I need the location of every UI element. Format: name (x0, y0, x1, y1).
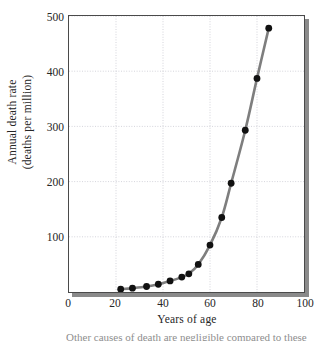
y-tick-label-100: 100 (30, 232, 64, 244)
x-tick-label-100: 100 (285, 297, 325, 309)
data-point-80 (254, 75, 261, 82)
data-point-22 (117, 286, 124, 292)
x-tick-label-40: 40 (143, 297, 183, 309)
x-tick-label-60: 60 (190, 297, 230, 309)
plot-canvas (69, 16, 304, 292)
data-point-69 (228, 180, 235, 187)
data-point-markers (117, 25, 272, 292)
data-point-85 (265, 25, 272, 32)
data-point-75 (242, 127, 249, 134)
data-point-65 (218, 214, 225, 221)
y-tick-label-400: 400 (30, 67, 64, 79)
data-point-27 (129, 285, 136, 292)
figure-caption-partial: Other causes of death are negligible com… (66, 331, 324, 341)
x-axis-title: Years of age (68, 313, 306, 325)
y-axis-tick-labels: 500 400 300 200 100 (28, 0, 64, 341)
vertical-gridlines (116, 16, 257, 292)
data-curve (121, 28, 269, 289)
data-point-60 (207, 242, 214, 249)
data-point-38 (155, 281, 162, 288)
x-tick-label-80: 80 (238, 297, 278, 309)
x-tick-label-0: 0 (48, 297, 88, 309)
horizontal-gridlines (69, 16, 304, 237)
data-point-51 (185, 270, 192, 277)
data-point-43 (167, 278, 174, 285)
data-point-48 (178, 274, 185, 281)
y-tick-label-500: 500 (30, 12, 64, 24)
plot-area (68, 15, 305, 293)
y-tick-label-200: 200 (30, 177, 64, 189)
y-tick-label-300: 300 (30, 122, 64, 134)
data-point-33 (143, 283, 150, 290)
figure-container: Annual death rate (deaths per million) 5… (0, 0, 330, 341)
data-point-55 (195, 261, 202, 268)
y-axis-title-line1: Annual death rate (5, 32, 20, 212)
x-tick-label-20: 20 (95, 297, 135, 309)
